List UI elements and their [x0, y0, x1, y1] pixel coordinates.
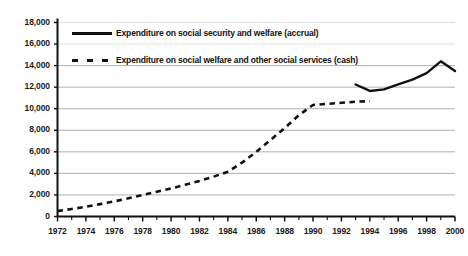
y-axis-label-8000: 8,000 [6, 124, 50, 134]
y-axis-label-0: 0 [6, 211, 50, 221]
y-axis-label-6000: 6,000 [6, 146, 50, 156]
y-axis-label-4000: 4,000 [6, 167, 50, 177]
y-axis-label-2000: 2,000 [6, 189, 50, 199]
y-axis-label-18000: 18,000 [6, 17, 50, 27]
y-axis-label-16000: 16,000 [6, 38, 50, 48]
chart-container: Expenditure on social security and welfa… [0, 0, 468, 256]
legend-label-1: Expenditure on social security and welfa… [116, 28, 318, 38]
y-axis-label-12000: 12,000 [6, 81, 50, 91]
y-axis-label-14000: 14,000 [6, 60, 50, 70]
y-axis-label-10000: 10,000 [6, 103, 50, 113]
chart-plot-area [0, 0, 468, 256]
x-axis-label-2000: 2000 [438, 226, 468, 236]
legend-label-2: Expenditure on social welfare and other … [116, 55, 358, 65]
